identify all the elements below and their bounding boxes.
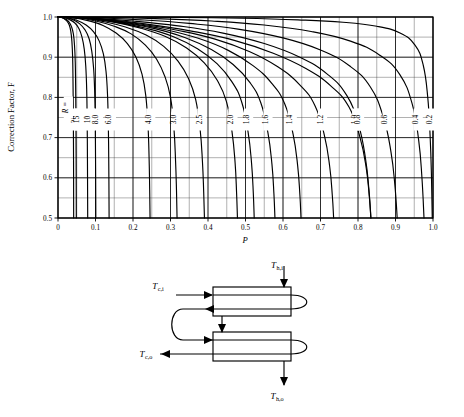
curve-label-R-0.4: 0.4	[411, 115, 420, 125]
y-tick-label: 0.7	[43, 134, 52, 142]
x-axis-title: P	[241, 235, 248, 245]
hot-inlet-subscript: h,i	[277, 264, 284, 271]
curve-label-R-6.0: 6.0	[104, 115, 113, 125]
cold-inlet-label: Tc,i	[152, 281, 164, 292]
y-axis-title: Correction Factor, F	[6, 82, 16, 152]
y-tick-label: 0.8	[43, 94, 52, 102]
cold-inlet-arrow	[204, 291, 213, 299]
cold-inlet-subscript: c,i	[158, 285, 164, 292]
x-axis-tick-labels: 00.10.20.30.40.50.60.70.80.91.0	[56, 224, 438, 232]
y-tick-label: 0.5	[43, 215, 52, 223]
curve-label-R-1.4: 1.4	[285, 115, 294, 125]
curve-label-R-0.2: 0.2	[425, 115, 434, 125]
curve-label-R-4.0: 4.0	[144, 115, 153, 125]
x-tick-label: 0.9	[391, 224, 400, 232]
y-axis-tick-labels: 0.50.60.70.80.91.0	[43, 14, 52, 223]
x-tick-label: 0.8	[354, 224, 363, 232]
curve-label-R-3.0: 3.0	[169, 115, 178, 125]
x-tick-label: 0.7	[316, 224, 325, 232]
lower-tube-u-bend	[213, 340, 307, 354]
curve-label-R-1.2: 1.2	[316, 115, 325, 125]
curve-label-R-1.6: 1.6	[261, 115, 270, 125]
curve-label-R-2.0: 2.0	[226, 115, 235, 125]
figure-root: 2015108.06.04.03.02.52.01.81.61.41.21.00…	[0, 0, 464, 417]
hot-inlet-label: Th,i	[271, 260, 283, 271]
lower-shell-box	[213, 332, 291, 361]
cold-outlet-subscript: c,o	[145, 353, 152, 360]
x-tick-label: 0.1	[91, 224, 100, 232]
lower-inlet-arrow	[204, 336, 213, 344]
x-tick-label: 0.6	[279, 224, 288, 232]
x-tick-label: 0	[56, 224, 60, 232]
upper-tube-u-bend	[213, 295, 307, 309]
curve-label-R-8.0: 8.0	[91, 115, 100, 125]
curve-label-R-2.5: 2.5	[195, 115, 204, 125]
cold-outlet-label: Tc,o	[140, 349, 153, 360]
left-return-bend	[172, 309, 213, 340]
curve-label-R-1.8: 1.8	[242, 115, 251, 125]
curve-label-R-0.6: 0.6	[380, 115, 389, 125]
x-tick-label: 1.0	[429, 224, 438, 232]
x-tick-label: 0.4	[204, 224, 213, 232]
curve-label-R-0.8: 0.8	[353, 115, 362, 125]
upper-shell-box	[213, 287, 291, 316]
x-tick-label: 0.5	[241, 224, 250, 232]
curve-label-R-15: 15	[72, 116, 81, 124]
lmtd-correction-factor-figure: 2015108.06.04.03.02.52.01.81.61.41.21.00…	[0, 0, 464, 417]
heat-exchanger-diagram	[160, 266, 307, 386]
x-tick-label: 0.2	[129, 224, 138, 232]
upper-return-arrow	[205, 305, 214, 313]
y-tick-label: 0.6	[43, 174, 52, 182]
hot-outlet-subscript: h,o	[276, 395, 284, 402]
x-tick-label: 0.3	[166, 224, 175, 232]
y-tick-label: 1.0	[43, 14, 52, 22]
hot-outlet-arrow	[280, 377, 288, 386]
cold-outlet-arrow	[161, 350, 170, 358]
hot-outlet-label: Th,o	[270, 391, 283, 402]
y-tick-label: 0.9	[43, 54, 52, 62]
r-parameter-annotation: R =	[61, 102, 70, 114]
